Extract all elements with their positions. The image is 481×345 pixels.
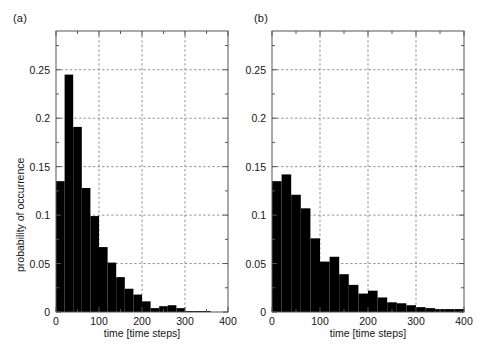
histogram-bar (133, 295, 142, 312)
histogram-bar (272, 181, 282, 312)
histogram-bar (310, 238, 320, 312)
y-axis-tick-label: 0.2 (35, 112, 50, 124)
histogram-bar (168, 305, 177, 312)
histogram-bar (378, 297, 388, 312)
histogram-bar (108, 263, 117, 312)
histogram-bar (116, 277, 125, 312)
histogram-bar (282, 174, 292, 312)
y-axis-tick-label: 0.1 (251, 209, 266, 221)
histogram-bar (368, 291, 378, 312)
histogram-bar (397, 303, 407, 312)
y-axis-tick-label: 0.2 (251, 112, 266, 124)
y-axis-tick-label: 0.25 (30, 64, 51, 76)
histogram-bar (99, 247, 108, 312)
chart-panel-a: (a) probability of occurrence 0100200300… (0, 0, 240, 345)
histogram-bar (82, 188, 91, 312)
histogram-bar (339, 274, 349, 312)
histogram-bar (65, 75, 74, 312)
histogram-bar (90, 216, 99, 312)
figure: (a) probability of occurrence 0100200300… (0, 0, 481, 345)
chart-panel-b: (b) 010020030040000.050.10.150.20.25 tim… (240, 0, 481, 345)
x-axis-tick-label: 200 (133, 315, 151, 327)
histogram-bar (291, 195, 301, 312)
x-axis-tick-label: 300 (407, 315, 425, 327)
histogram-bar (125, 289, 134, 312)
histogram-bar (330, 257, 340, 312)
x-axis-tick-label: 100 (90, 315, 108, 327)
x-axis-tick-label: 400 (455, 315, 473, 327)
y-axis-tick-label: 0.15 (246, 161, 267, 173)
x-axis-tick-label: 100 (311, 315, 329, 327)
x-axis-label-a: time [time steps] (56, 327, 228, 339)
histogram-bar (176, 308, 185, 312)
y-axis-tick-label: 0.05 (246, 258, 267, 270)
x-axis-tick-label: 0 (53, 315, 59, 327)
histogram-bar (358, 294, 368, 312)
histogram-bar (301, 208, 311, 312)
x-axis-tick-label: 400 (219, 315, 237, 327)
y-axis-tick-label: 0 (260, 306, 266, 318)
x-axis-label-b: time [time steps] (272, 327, 464, 339)
x-axis-tick-label: 0 (269, 315, 275, 327)
histogram-bar (426, 308, 436, 312)
histogram-bar (142, 301, 151, 312)
y-axis-tick-label: 0.05 (30, 258, 51, 270)
histogram-bar (56, 181, 65, 312)
y-axis-tick-label: 0.15 (30, 161, 51, 173)
x-axis-tick-label: 300 (176, 315, 194, 327)
histogram-bar (73, 127, 82, 312)
histogram-bar (151, 308, 160, 312)
histogram-bar (349, 285, 359, 312)
histogram-bar (406, 305, 416, 312)
histogram-bar (416, 307, 426, 312)
plot-area-b: 010020030040000.050.10.150.20.25 (240, 0, 481, 345)
x-axis-tick-label: 200 (359, 315, 377, 327)
y-axis-tick-label: 0 (44, 306, 50, 318)
y-axis-tick-label: 0.1 (35, 209, 50, 221)
plot-area-a: 010020030040000.050.10.150.20.25 (0, 0, 240, 345)
y-axis-tick-label: 0.25 (246, 64, 267, 76)
histogram-bar (320, 262, 330, 312)
